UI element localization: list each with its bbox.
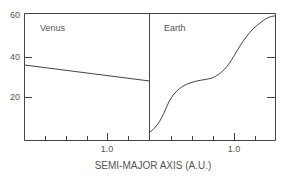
chart-canvas: 60 40 20 Venus Earth 1.0 1.0 SEMI-MAJOR … (0, 0, 289, 180)
earth-panel-label: Earth (164, 23, 186, 33)
y-tick-label-40: 40 (10, 52, 20, 62)
right-y-ticks (267, 58, 275, 98)
venus-x-ticks (46, 133, 129, 140)
left-y-ticks (24, 58, 32, 98)
venus-x-tick-label: 1.0 (101, 144, 114, 154)
earth-x-ticks (172, 133, 256, 140)
venus-curve (25, 65, 150, 81)
earth-curve (150, 16, 275, 132)
earth-x-tick-label: 1.0 (228, 144, 241, 154)
venus-panel-label: Venus (40, 23, 66, 33)
y-tick-label-60: 60 (10, 10, 20, 20)
x-axis-title: SEMI-MAJOR AXIS (A.U.) (95, 160, 212, 171)
y-tick-label-20: 20 (10, 92, 20, 102)
